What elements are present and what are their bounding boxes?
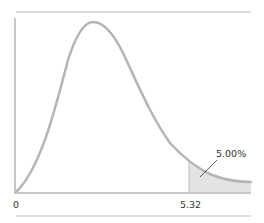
x-tick-origin: 0	[13, 200, 19, 210]
x-tick-critical-value: 5.32	[180, 200, 201, 210]
density-curve	[16, 22, 251, 192]
f-distribution-chart	[0, 0, 264, 223]
annotation-tail-percent: 5.00%	[216, 149, 246, 159]
